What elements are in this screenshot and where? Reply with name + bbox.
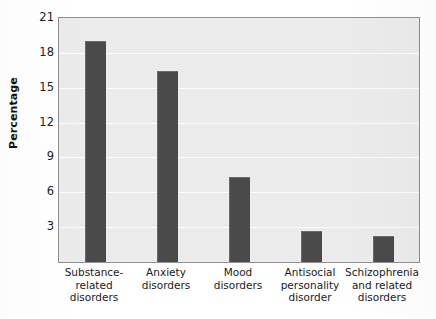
y-axis-title: Percentage	[6, 68, 22, 158]
y-axis-tick-labels: 36912151821	[26, 0, 54, 280]
y-tick-label: 15	[26, 81, 54, 93]
x-category-label-line: disorders	[48, 291, 140, 304]
y-tick-label: 9	[26, 150, 54, 162]
x-category-label-line: Schizophrenia	[336, 266, 428, 279]
bar	[229, 177, 250, 262]
y-tick-label: 21	[26, 11, 54, 23]
y-tick-label: 18	[26, 46, 54, 58]
x-category-label-line: disorders	[336, 291, 428, 304]
bar	[373, 236, 394, 262]
bar	[157, 71, 178, 262]
gridline	[59, 88, 419, 89]
gridline	[59, 53, 419, 54]
gridline	[59, 157, 419, 158]
gridline	[59, 123, 419, 124]
y-tick-label: 12	[26, 116, 54, 128]
y-tick-label: 6	[26, 185, 54, 197]
bar	[301, 231, 322, 262]
bar-chart-figure: Percentage 36912151821 Substance-related…	[0, 0, 436, 319]
plot-area	[58, 17, 420, 263]
bar	[85, 41, 106, 262]
x-category-label: Schizophreniaand relateddisorders	[336, 266, 428, 304]
y-tick-label: 3	[26, 220, 54, 232]
x-category-label-line: and related	[336, 279, 428, 292]
x-axis-category-labels: Substance-relateddisordersAnxietydisorde…	[58, 266, 420, 316]
